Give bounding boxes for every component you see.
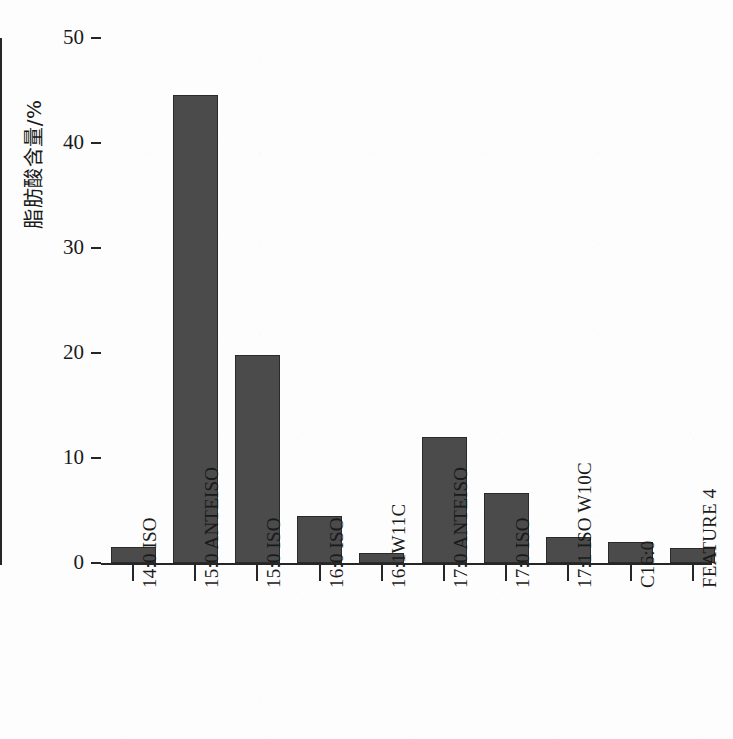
x-tick-mark — [505, 565, 507, 581]
x-tick-mark — [256, 565, 258, 581]
x-tick-mark — [443, 565, 445, 581]
y-axis-label: 脂肪酸含量/% — [18, 74, 44, 254]
x-tick-mark — [132, 565, 134, 581]
y-tick-mark — [91, 37, 101, 39]
x-tick-label: 15:0 ANTEISO — [202, 467, 221, 588]
x-tick-label: 14:0 ISO — [140, 517, 159, 588]
x-tick-label: 17:0 ISO — [513, 517, 532, 588]
y-tick-mark — [91, 247, 101, 249]
y-axis-spine — [0, 38, 2, 565]
x-tick-mark — [194, 565, 196, 581]
x-tick-mark — [692, 565, 694, 581]
fatty-acid-bar-chart: 脂肪酸含量/% 01020304050 14:0 ISO15:0 ANTEISO… — [0, 0, 733, 739]
y-tick-label-text: 20 — [38, 342, 84, 363]
x-tick-mark — [381, 565, 383, 581]
y-tick-label-text: 0 — [38, 552, 84, 573]
x-tick-label: 17:1 ISO W10C — [575, 462, 594, 588]
x-tick-label: 16:0 ISO — [327, 517, 346, 588]
y-tick-mark — [91, 457, 101, 459]
y-tick-mark — [91, 352, 101, 354]
y-tick-label: 50 — [24, 27, 84, 48]
y-tick-label-text: 10 — [38, 447, 84, 468]
y-tick-label: 40 — [24, 132, 84, 153]
y-tick-mark — [91, 142, 101, 144]
y-tick-label: 0 — [24, 552, 84, 573]
scan-grain-overlay — [0, 0, 733, 739]
x-tick-label: 15:0 ISO — [264, 517, 283, 588]
x-tick-label: 17:0 ANTEISO — [451, 467, 470, 588]
x-tick-mark — [319, 565, 321, 581]
x-tick-label: FEATURE 4 — [700, 489, 719, 588]
y-tick-label-text: 50 — [38, 27, 84, 48]
y-tick-mark — [91, 562, 101, 564]
y-tick-label-text: 30 — [38, 237, 84, 258]
y-tick-label-text: 40 — [38, 132, 84, 153]
x-tick-label: 16:1W11C — [389, 504, 408, 588]
x-tick-mark — [630, 565, 632, 581]
y-tick-label: 20 — [24, 342, 84, 363]
y-tick-label: 30 — [24, 237, 84, 258]
x-tick-label: C16:0 — [638, 541, 657, 588]
y-tick-label: 10 — [24, 447, 84, 468]
x-tick-mark — [567, 565, 569, 581]
